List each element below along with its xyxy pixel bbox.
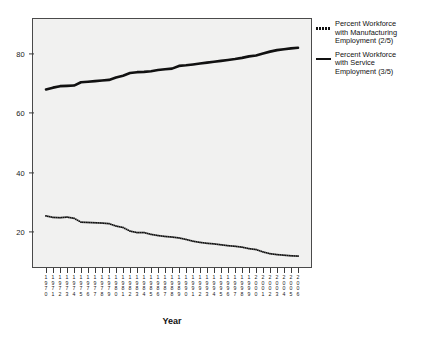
x-tick-label: 1979: [106, 275, 113, 297]
x-tick-label: 2003: [274, 275, 281, 297]
x-tick-label: 1983: [134, 275, 141, 297]
x-tick-mark: [60, 268, 61, 273]
x-tick-label: 2006: [295, 275, 302, 297]
x-tick-label: 1973: [64, 275, 71, 297]
x-tick-mark: [81, 268, 82, 273]
x-tick-mark: [263, 268, 264, 273]
x-tick-label: 1971: [50, 275, 57, 297]
x-tick-mark: [228, 268, 229, 273]
legend-label: Percent Workforce with Manufacturing Emp…: [335, 20, 397, 46]
x-tick-mark: [165, 268, 166, 273]
plot-series-canvas: [32, 18, 312, 268]
x-tick-label: 2002: [267, 275, 274, 297]
x-tick-label: 1972: [57, 275, 64, 297]
legend-entry: Percent Workforce with Service Employmen…: [316, 51, 426, 77]
legend-swatch-icon: [316, 58, 331, 61]
x-axis: 1970197119721973197419751976197719781979…: [32, 268, 312, 314]
x-tick-label: 2004: [281, 275, 288, 297]
series-line-service: [46, 48, 298, 90]
x-tick-label: 1998: [239, 275, 246, 297]
x-tick-mark: [214, 268, 215, 273]
x-tick-mark: [102, 268, 103, 273]
y-tick-label: 20: [16, 228, 25, 237]
x-tick-label: 1976: [85, 275, 92, 297]
x-tick-mark: [235, 268, 236, 273]
x-tick-label: 1974: [71, 275, 78, 297]
x-tick-mark: [284, 268, 285, 273]
legend-label: Percent Workforce with Service Employmen…: [335, 51, 396, 77]
x-tick-mark: [53, 268, 54, 273]
y-tick-mark: [29, 232, 34, 233]
legend-key-solid: [316, 51, 332, 69]
x-tick-mark: [46, 268, 47, 273]
x-tick-label: 1978: [99, 275, 106, 297]
x-axis-title: Year: [32, 316, 312, 326]
x-tick-label: 2005: [288, 275, 295, 297]
x-tick-mark: [249, 268, 250, 273]
legend-key-dotted: [316, 20, 332, 38]
x-tick-mark: [200, 268, 201, 273]
x-tick-mark: [193, 268, 194, 273]
x-tick-label: 2000: [253, 275, 260, 297]
x-tick-label: 1990: [183, 275, 190, 297]
x-tick-mark: [242, 268, 243, 273]
x-tick-label: 1985: [148, 275, 155, 297]
y-tick-mark: [29, 172, 34, 173]
legend-entry: Percent Workforce with Manufacturing Emp…: [316, 20, 426, 46]
x-tick-label: 1989: [176, 275, 183, 297]
x-tick-mark: [221, 268, 222, 273]
x-tick-label: 1995: [218, 275, 225, 297]
x-tick-mark: [291, 268, 292, 273]
x-tick-label: 1980: [113, 275, 120, 297]
x-tick-mark: [130, 268, 131, 273]
x-tick-mark: [277, 268, 278, 273]
x-tick-mark: [74, 268, 75, 273]
x-tick-label: 1975: [78, 275, 85, 297]
x-tick-mark: [172, 268, 173, 273]
x-tick-mark: [95, 268, 96, 273]
x-tick-mark: [137, 268, 138, 273]
x-tick-mark: [67, 268, 68, 273]
y-axis: 20406080: [0, 0, 34, 337]
y-tick-label: 80: [16, 49, 25, 58]
x-tick-label: 2001: [260, 275, 267, 297]
x-tick-mark: [123, 268, 124, 273]
x-tick-label: 1977: [92, 275, 99, 297]
x-tick-label: 1970: [43, 275, 50, 297]
x-tick-label: 1982: [127, 275, 134, 297]
x-tick-mark: [88, 268, 89, 273]
x-tick-mark: [151, 268, 152, 273]
x-tick-mark: [179, 268, 180, 273]
x-tick-mark: [116, 268, 117, 273]
legend-swatch-icon: [316, 27, 331, 30]
x-tick-label: 1986: [155, 275, 162, 297]
x-tick-label: 1996: [225, 275, 232, 297]
x-tick-label: 1992: [197, 275, 204, 297]
x-tick-mark: [298, 268, 299, 273]
x-tick-mark: [256, 268, 257, 273]
x-tick-label: 1997: [232, 275, 239, 297]
x-tick-mark: [158, 268, 159, 273]
x-tick-mark: [207, 268, 208, 273]
y-tick-label: 60: [16, 109, 25, 118]
x-tick-mark: [270, 268, 271, 273]
x-tick-mark: [186, 268, 187, 273]
chart-figure: 20406080 1970197119721973197419751976197…: [0, 0, 426, 337]
series-line-manufacturing: [45, 215, 299, 257]
x-tick-label: 1984: [141, 275, 148, 297]
x-tick-label: 1991: [190, 275, 197, 297]
x-tick-mark: [109, 268, 110, 273]
y-tick-label: 40: [16, 168, 25, 177]
x-tick-label: 1987: [162, 275, 169, 297]
x-tick-label: 1988: [169, 275, 176, 297]
chart-legend: Percent Workforce with Manufacturing Emp…: [316, 20, 426, 82]
y-tick-mark: [29, 113, 34, 114]
y-tick-mark: [29, 53, 34, 54]
x-tick-label: 1994: [211, 275, 218, 297]
x-tick-label: 1993: [204, 275, 211, 297]
x-tick-label: 1999: [246, 275, 253, 297]
x-tick-mark: [144, 268, 145, 273]
x-tick-label: 1981: [120, 275, 127, 297]
